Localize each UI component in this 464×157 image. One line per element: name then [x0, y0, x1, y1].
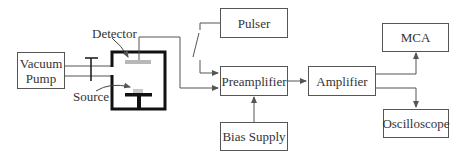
vacuum-pipe [64, 66, 112, 76]
amplifier-label: Amplifier [316, 74, 367, 89]
mca-label: MCA [401, 30, 431, 45]
oscilloscope-label: Oscilloscope [382, 116, 449, 131]
mca-box: MCA [382, 23, 449, 52]
amp-to-oscilloscope-line [376, 88, 416, 107]
preamplifier-box: Preamplifier [220, 66, 288, 96]
amplifier-box: Amplifier [308, 66, 376, 96]
pulser-box: Pulser [220, 8, 288, 38]
detector-label: Detector [92, 26, 137, 42]
detector-plate [125, 60, 151, 64]
vacuum-pump-label-line2: Pump [26, 71, 56, 86]
pulser-line [200, 23, 220, 30]
block-diagram: Vacuum Pump Detector Source Pulser Pream… [0, 0, 464, 157]
pulser-label: Pulser [238, 16, 271, 31]
vacuum-pump-box: Vacuum Pump [17, 52, 65, 89]
oscilloscope-box: Oscilloscope [383, 109, 449, 138]
source-label: Source [73, 89, 109, 105]
valve-icon [85, 58, 98, 81]
vacuum-pump-label-line1: Vacuum [20, 56, 63, 71]
switch-to-preamp-line [200, 60, 218, 73]
preamplifier-label: Preamplifier [222, 74, 287, 89]
bias-supply-label: Bias Supply [222, 129, 285, 144]
bias-supply-box: Bias Supply [220, 122, 288, 151]
switch-icon [193, 33, 199, 57]
amp-to-mca-line [376, 53, 416, 74]
